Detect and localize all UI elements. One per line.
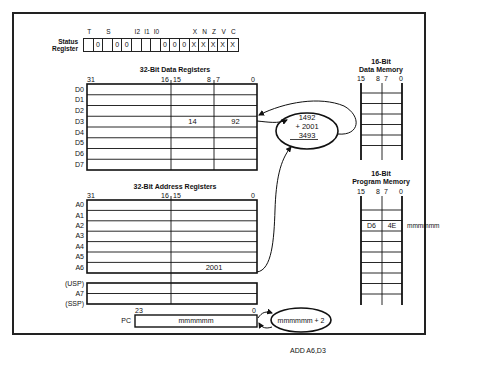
data-register-label: D3 [64, 118, 84, 126]
address-register-value: 2001 [171, 263, 257, 272]
instruction-caption: ADD A6,D3 [290, 347, 326, 355]
address-bit-15: 15 [173, 192, 181, 200]
pc-bit-0: 0 [252, 307, 256, 315]
data-register-label: D0 [64, 86, 84, 94]
data-register-mid-byte: 14 [171, 117, 214, 126]
address-register-label: A6 [64, 264, 84, 272]
data-memory-bit-0: 0 [399, 75, 403, 83]
program-memory-bit-15: 15 [357, 188, 365, 196]
data-register-low-byte: 92 [214, 117, 257, 126]
address-register-label: A4 [64, 243, 84, 251]
alu-operand-1: 1492 [282, 113, 332, 122]
data-memory-ladder [361, 83, 402, 160]
data-memory-bit-7: 7 [384, 75, 388, 83]
program-memory-bit-7: 7 [384, 188, 388, 196]
address-bit-16: 16 [161, 192, 169, 200]
data-register-label: D5 [64, 139, 84, 147]
address-register-label: A5 [64, 253, 84, 261]
program-memory-title-2: Program Memory [346, 178, 416, 186]
alu-result: 3493 [282, 131, 332, 140]
address-register-grid [87, 196, 257, 327]
data-bit-8: 8 [207, 76, 211, 84]
data-memory-title-1: 16-Bit [351, 58, 411, 66]
pc-value: mmmmmm [135, 316, 257, 325]
arrow-a6-to-alu [257, 147, 291, 272]
data-registers-title: 32-Bit Data Registers [120, 66, 230, 74]
data-register-label: D7 [64, 161, 84, 169]
pc-label: PC [111, 317, 131, 325]
data-memory-title-2: Data Memory [351, 66, 411, 74]
pc-increment-expression: mmmmmm + 2 [271, 316, 331, 325]
data-bit-15: 15 [173, 76, 181, 84]
address-register-label: A1 [64, 212, 84, 220]
a7-label: A7 [64, 290, 84, 298]
data-bit-0: 0 [251, 76, 255, 84]
instruction-high-byte: D6 [361, 221, 382, 230]
data-memory-bit-8: 8 [376, 75, 380, 83]
address-bit-31: 31 [87, 192, 95, 200]
data-bit-31: 31 [87, 76, 95, 84]
address-register-label: A2 [64, 222, 84, 230]
instruction-address: mmmmmm [407, 222, 440, 230]
usp-label: (USP) [64, 280, 84, 288]
arrow-pc-to-increment [258, 312, 272, 318]
data-register-label: D4 [64, 129, 84, 137]
data-bit-7: 7 [216, 76, 220, 84]
data-register-label: D1 [64, 96, 84, 104]
program-memory-bit-8: 8 [376, 188, 380, 196]
alu-operand-2: + 2001 [282, 122, 332, 131]
instruction-low-byte: 4E [382, 221, 402, 230]
program-memory-title-1: 16-Bit [346, 170, 416, 178]
ssp-label: (SSP) [64, 300, 84, 308]
address-bit-0: 0 [251, 192, 255, 200]
pc-bit-23: 23 [135, 307, 143, 315]
program-memory-bit-0: 0 [399, 188, 403, 196]
data-memory-bit-15: 15 [357, 75, 365, 83]
program-memory-ladder [361, 196, 402, 305]
address-registers-title: 32-Bit Address Registers [120, 183, 230, 191]
address-register-label: A3 [64, 232, 84, 240]
address-register-label: A0 [64, 201, 84, 209]
data-register-label: D6 [64, 150, 84, 158]
data-register-label: D2 [64, 107, 84, 115]
data-bit-16: 16 [161, 76, 169, 84]
